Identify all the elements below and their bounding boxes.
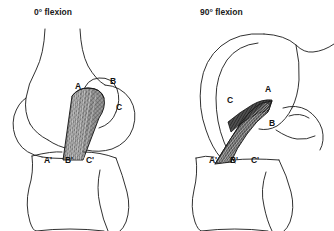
panel-left-title: 0° flexion [34, 7, 72, 17]
left-label-A-prime: A' [44, 155, 52, 165]
figure-background [0, 0, 334, 231]
left-label-C: C [116, 102, 122, 112]
left-label-A: A [75, 81, 81, 91]
right-label-B-prime: B' [230, 155, 238, 165]
panel-right-title: 90° flexion [200, 7, 243, 17]
left-label-B: B [110, 76, 116, 86]
right-label-C: C [227, 95, 233, 105]
left-label-B-prime: B' [65, 155, 73, 165]
right-label-B: B [269, 118, 275, 128]
left-label-C-prime: C' [86, 155, 94, 165]
right-label-A: A [265, 84, 271, 94]
right-label-A-prime: A' [209, 155, 217, 165]
ligament-flexion-figure: 0° flexion [0, 0, 334, 231]
right-label-C-prime: C' [251, 155, 259, 165]
